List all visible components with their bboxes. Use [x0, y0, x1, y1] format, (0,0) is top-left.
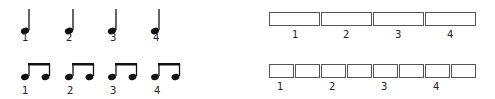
beat-label: 1 — [277, 82, 283, 92]
beat-label: 3 — [395, 30, 401, 40]
beat-label: 2 — [329, 82, 335, 92]
beat-box — [321, 12, 372, 26]
beat-label: 3 — [110, 86, 116, 96]
beat-label: 2 — [66, 33, 72, 43]
beat-label: 4 — [433, 82, 439, 92]
beat-label: 3 — [110, 33, 116, 43]
beat-box — [295, 64, 320, 78]
beat-box — [269, 64, 294, 78]
beamed-eighth-notes-icon — [150, 62, 186, 82]
beat-box — [347, 64, 372, 78]
beat-label: 3 — [381, 82, 387, 92]
beat-box — [425, 64, 450, 78]
beat-label: 1 — [22, 33, 28, 43]
beamed-eighth-notes-icon — [107, 62, 143, 82]
beat-box — [373, 64, 398, 78]
beat-label: 4 — [447, 30, 453, 40]
beamed-eighth-notes-icon — [64, 62, 100, 82]
beat-box — [321, 64, 346, 78]
beat-box — [373, 12, 424, 26]
beat-label: 1 — [292, 30, 298, 40]
beat-box — [451, 64, 476, 78]
beat-label: 2 — [67, 86, 73, 96]
beat-label: 4 — [153, 33, 159, 43]
beat-box — [269, 12, 320, 26]
beat-label: 2 — [343, 30, 349, 40]
beat-box — [399, 64, 424, 78]
beat-label: 1 — [22, 86, 28, 96]
beat-label: 4 — [154, 86, 160, 96]
beat-box — [425, 12, 476, 26]
beamed-eighth-notes-icon — [20, 62, 56, 82]
